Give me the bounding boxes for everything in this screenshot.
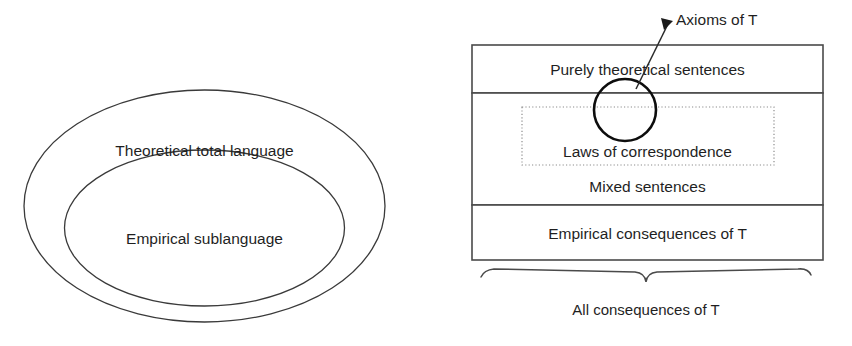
right-diagram-group: Purely theoretical sentences Laws of cor… [472,11,823,318]
outer-ellipse-theoretical-total-language [24,90,385,322]
axioms-callout-label: Axioms of T [676,11,758,28]
axioms-callout-arrow-icon [661,18,673,30]
diagram-canvas: Theoretical total language Empirical sub… [0,0,852,346]
brace-label-all-consequences: All consequences of T [572,301,719,318]
band-label-mixed-sentences: Mixed sentences [589,178,706,195]
dotted-region-label: Laws of correspondence [563,143,732,160]
outer-ellipse-label: Theoretical total language [115,142,293,159]
inner-ellipse-label: Empirical sublanguage [126,230,283,247]
band-label-purely-theoretical-sentences: Purely theoretical sentences [550,61,745,78]
band-label-empirical-consequences: Empirical consequences of T [548,225,747,242]
left-diagram-group: Theoretical total language Empirical sub… [24,90,385,322]
all-consequences-brace-icon [481,269,811,282]
figure-root: Theoretical total language Empirical sub… [0,0,852,346]
inner-ellipse-empirical-sublanguage [65,150,345,306]
